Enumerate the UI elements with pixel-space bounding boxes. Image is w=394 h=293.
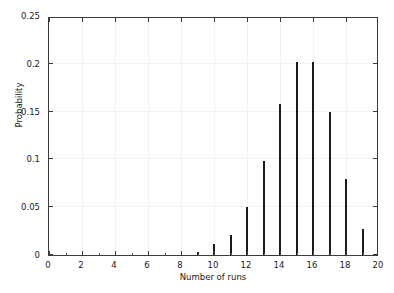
x-tick-label: 4 (99, 260, 129, 270)
gridline-vertical (148, 18, 149, 255)
y-axis-label: Probability (14, 40, 24, 170)
y-tick-major-right (373, 63, 377, 64)
x-tick-major-top (115, 18, 116, 22)
x-tick-major (148, 251, 149, 255)
y-tick-major-right (373, 254, 377, 255)
x-tick-major (280, 251, 281, 255)
bar (279, 104, 281, 255)
x-tick-minor (198, 253, 199, 255)
y-tick-major (49, 63, 53, 64)
x-tick-label: 2 (66, 260, 96, 270)
x-tick-major-top (181, 18, 182, 22)
x-tick-major-top (377, 18, 378, 22)
x-tick-minor (132, 253, 133, 255)
x-tick-major (346, 251, 347, 255)
y-tick-major (49, 111, 53, 112)
y-tick-label: 0 (0, 250, 40, 261)
bar (329, 112, 331, 255)
x-tick-major (115, 251, 116, 255)
x-tick-minor (99, 253, 100, 255)
x-tick-major (313, 251, 314, 255)
bar (312, 62, 314, 255)
x-tick-major-top (214, 18, 215, 22)
x-tick-major (181, 251, 182, 255)
x-tick-minor (231, 253, 232, 255)
y-tick-label: 0.05 (0, 202, 40, 213)
x-tick-major-top (49, 18, 50, 22)
x-tick-label: 20 (363, 260, 393, 270)
x-tick-label: 12 (231, 260, 261, 270)
x-tick-major-top (247, 18, 248, 22)
y-tick-label: 0.25 (0, 11, 40, 22)
bar (246, 207, 248, 255)
x-tick-minor (66, 253, 67, 255)
x-tick-major-top (313, 18, 314, 22)
x-tick-minor (264, 253, 265, 255)
x-tick-major (377, 251, 378, 255)
y-tick-major-right (373, 111, 377, 112)
x-tick-major (214, 251, 215, 255)
x-axis-label: Number of runs (48, 272, 378, 282)
gridline-vertical (181, 18, 182, 255)
bar (362, 229, 364, 255)
x-tick-major-top (346, 18, 347, 22)
x-tick-minor (363, 253, 364, 255)
y-tick-major-right (373, 206, 377, 207)
x-tick-major-top (148, 18, 149, 22)
x-tick-label: 10 (198, 260, 228, 270)
x-tick-minor (330, 253, 331, 255)
y-tick-major (49, 254, 53, 255)
y-tick-major (49, 206, 53, 207)
y-tick-major (49, 158, 53, 159)
x-tick-major-top (280, 18, 281, 22)
gridline-vertical (214, 18, 215, 255)
y-tick-major-right (373, 158, 377, 159)
bar (296, 62, 298, 255)
probability-distribution-chart: 02468101214161820 00.050.10.150.20.25 Nu… (0, 0, 394, 293)
x-tick-label: 16 (297, 260, 327, 270)
x-tick-label: 18 (330, 260, 360, 270)
bar (345, 179, 347, 255)
x-tick-major (247, 251, 248, 255)
plot-area (48, 17, 378, 256)
x-tick-major-top (82, 18, 83, 22)
bar (230, 235, 232, 255)
x-tick-minor (165, 253, 166, 255)
x-tick-minor (297, 253, 298, 255)
gridline-vertical (115, 18, 116, 255)
x-tick-label: 6 (132, 260, 162, 270)
bar (263, 161, 265, 255)
x-tick-label: 0 (33, 260, 63, 270)
x-tick-label: 8 (165, 260, 195, 270)
gridline-vertical (82, 18, 83, 255)
gridline-horizontal (49, 63, 377, 64)
x-tick-label: 14 (264, 260, 294, 270)
x-tick-major (82, 251, 83, 255)
